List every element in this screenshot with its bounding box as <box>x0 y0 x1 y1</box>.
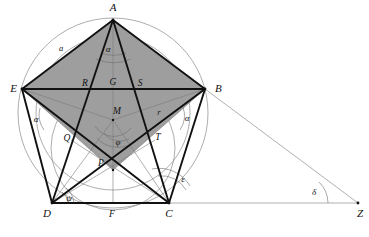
angle-label-phi: φ <box>116 137 121 147</box>
vertex-label-E: E <box>9 82 17 94</box>
point-label-G: G <box>110 77 117 87</box>
point-label-M: M <box>112 106 122 116</box>
vertex-dot-P <box>112 169 114 171</box>
angle-label-delta: δ <box>312 187 317 197</box>
arc-alpha-left <box>39 108 44 130</box>
segment-B-Z <box>205 89 358 203</box>
vertex-label-B: B <box>215 82 222 94</box>
point-label-R: R <box>81 78 88 88</box>
angle-label-alpha-apex: α <box>106 44 111 54</box>
point-label-P: P <box>97 158 104 168</box>
angle-label-alpha-right: α <box>185 113 190 123</box>
arc-delta <box>319 182 328 203</box>
point-label-Q: Q <box>64 133 71 143</box>
angle-label-alpha-left: α <box>34 114 39 124</box>
vertex-label-A: A <box>109 1 117 13</box>
point-label-F: F <box>108 209 115 219</box>
vertex-dot-C <box>168 202 171 205</box>
vertex-label-C: C <box>165 207 173 219</box>
vertex-dot-B <box>204 88 207 91</box>
geometry-figure: A B C D E Z R G S M Q T P F α α α φ ψ ε … <box>0 0 369 237</box>
vertex-dot-A <box>112 19 115 22</box>
length-label-side-a: a <box>59 43 63 53</box>
angle-label-psi: ψ <box>66 193 72 203</box>
vertex-dot-M <box>112 119 114 121</box>
geometry-canvas: A B C D E Z R G S M Q T P F α α α φ ψ ε … <box>0 0 369 237</box>
point-label-S: S <box>138 78 143 88</box>
vertex-dot-Z <box>357 202 360 205</box>
angle-label-epsilon: ε <box>181 174 185 184</box>
vertex-label-D: D <box>42 207 51 219</box>
point-label-T: T <box>155 132 161 142</box>
vertex-dot-E <box>21 88 24 91</box>
vertex-dot-D <box>51 202 54 205</box>
vertex-label-Z: Z <box>357 207 364 219</box>
